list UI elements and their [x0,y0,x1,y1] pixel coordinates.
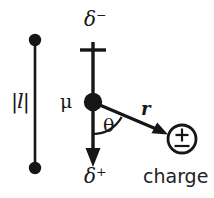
charge-symbol-group [168,125,196,153]
delta-positive-label: δ⁺ [84,166,107,186]
charge-text-label: charge [143,167,208,186]
delta-negative-label: δ⁻ [84,9,107,29]
dipole-charge-diagram: |l| δ⁻ δ⁺ μ θ r charge [0,0,214,198]
theta-angle-label: θ [103,116,114,135]
bond-bottom-atom-dot [29,162,41,174]
dipole-origin-dot [84,93,102,111]
r-vector-label: r [141,100,150,118]
bond-length-label: |l| [11,91,29,112]
dipole-moment-label: μ [60,92,72,111]
bond-top-atom-dot [29,34,41,46]
bond-length-group [29,34,41,174]
